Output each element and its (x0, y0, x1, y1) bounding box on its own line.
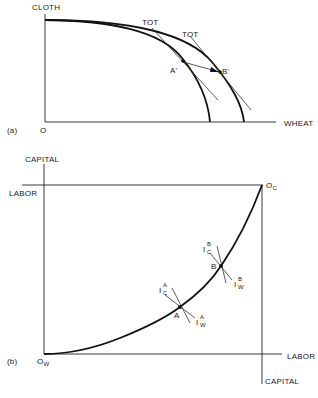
svg-text:W: W (200, 322, 206, 328)
isoquant-w-b-label: I B W (234, 276, 244, 290)
svg-text:I: I (203, 245, 205, 254)
isoquant-c-b-label: I B C (203, 241, 212, 255)
labor-left-label: LABOR (9, 189, 37, 198)
capital-bottom-label: CAPITAL (265, 377, 300, 386)
contract-curve (44, 185, 262, 354)
svg-text:I: I (234, 280, 236, 289)
svg-text:B: B (238, 276, 242, 282)
point-a (178, 305, 182, 309)
isoquant-w-a-label: I A W (196, 314, 206, 328)
svg-text:W: W (238, 284, 244, 290)
svg-text:C: C (207, 249, 212, 255)
tot-label-1: TOT (142, 18, 158, 27)
svg-text:I: I (159, 286, 161, 295)
svg-text:I: I (196, 318, 198, 327)
svg-text:C: C (163, 290, 168, 296)
cloth-label: CLOTH (32, 3, 60, 12)
b-prime-label: B' (222, 67, 230, 76)
wheat-label: WHEAT (284, 119, 313, 128)
svg-text:A: A (200, 314, 204, 320)
tot-label-2: TOT (182, 30, 198, 39)
labor-bottom-label: LABOR (287, 352, 315, 361)
svg-text:B: B (207, 241, 211, 247)
origin-label: O (40, 126, 46, 135)
point-b-label: B (211, 262, 217, 271)
point-a-prime (181, 59, 185, 63)
diagram-canvas: CLOTH WHEAT O (a) TOT TOT A' B' CAPITAL … (0, 0, 318, 398)
panel-b: CAPITAL LABOR LABOR CAPITAL (b) OW OC B … (7, 155, 315, 386)
point-b (219, 264, 223, 268)
panel-a-tag: (a) (7, 126, 18, 135)
origin-cloth-label: OC (266, 181, 277, 191)
point-a-label: A (174, 311, 180, 320)
panel-b-tag: (b) (7, 357, 18, 366)
isoquant-c-a-label: I A C (159, 282, 168, 296)
panel-a: CLOTH WHEAT O (a) TOT TOT A' B' (7, 3, 313, 135)
capital-top-label: CAPITAL (25, 155, 60, 164)
origin-wheat-label: OW (37, 357, 49, 367)
svg-text:A: A (163, 282, 167, 288)
a-prime-label: A' (170, 66, 178, 75)
